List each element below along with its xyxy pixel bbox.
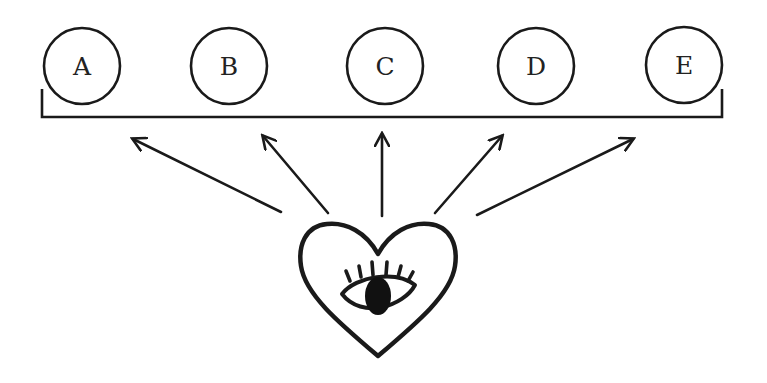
option-nodes: ABCDE [44,27,722,104]
arrow-to-b [263,136,328,213]
arrow-to-e [477,139,633,215]
node-label: B [220,52,238,81]
arrow-to-d [435,136,502,213]
diagram-svg: ABCDE [0,0,767,383]
node-label: E [675,51,693,80]
node-label: C [375,52,394,81]
node-d: D [498,28,574,104]
node-label: D [526,52,546,81]
pupil [365,277,391,315]
node-a: A [44,28,120,104]
node-b: B [191,28,267,104]
heart-with-eye-icon [300,224,455,356]
node-c: C [347,28,423,104]
node-e: E [646,27,722,103]
gaze-arrows [133,134,633,216]
node-label: A [72,52,92,81]
diagram-canvas: ABCDE [0,0,767,383]
arrow-to-a [133,139,281,212]
